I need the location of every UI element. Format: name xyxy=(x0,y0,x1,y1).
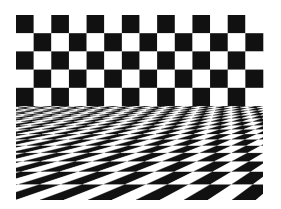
wall-tile xyxy=(210,51,228,70)
wall-tile xyxy=(122,88,140,107)
wall-tile xyxy=(34,33,52,52)
wall-tile xyxy=(175,70,193,89)
wall-tile xyxy=(228,33,246,52)
wall-tile xyxy=(69,88,87,107)
wall-tile xyxy=(210,33,228,52)
wall-tile xyxy=(34,15,52,34)
checkered-wall xyxy=(16,15,263,106)
wall-tile xyxy=(157,70,175,89)
wall-tile xyxy=(140,33,158,52)
wall-tile xyxy=(228,15,246,34)
wall-tile xyxy=(122,15,140,34)
wall-tile xyxy=(34,51,52,70)
wall-tile xyxy=(34,70,52,89)
wall-tile xyxy=(104,88,122,107)
wall-tile xyxy=(192,88,210,107)
wall-tile xyxy=(104,70,122,89)
wall-tile xyxy=(87,15,105,34)
wall-tile xyxy=(245,88,263,107)
wall-tile xyxy=(122,33,140,52)
wall-tile xyxy=(192,15,210,34)
wall-tile xyxy=(157,15,175,34)
wall-tile xyxy=(16,33,34,52)
wall-tile xyxy=(51,70,69,89)
wall-tile xyxy=(16,88,34,107)
wall-tile xyxy=(245,33,263,52)
wall-tile xyxy=(228,70,246,89)
wall-tile xyxy=(87,33,105,52)
wall-tile xyxy=(157,88,175,107)
checkered-perspective-floor xyxy=(0,104,281,200)
wall-tile xyxy=(140,70,158,89)
wall-tile xyxy=(140,15,158,34)
wall-tile xyxy=(122,51,140,70)
wall-tile xyxy=(140,88,158,107)
wall-tile xyxy=(192,51,210,70)
wall-tile xyxy=(175,51,193,70)
wall-tile xyxy=(51,33,69,52)
wall-tile xyxy=(245,51,263,70)
wall-tile xyxy=(69,15,87,34)
wall-tile xyxy=(157,33,175,52)
wall-tile xyxy=(210,88,228,107)
wall-tile xyxy=(104,33,122,52)
wall-tile xyxy=(122,70,140,89)
wall-tile xyxy=(140,51,158,70)
wall-tile xyxy=(16,70,34,89)
wall-tile xyxy=(87,70,105,89)
wall-tile xyxy=(69,51,87,70)
wall-tile xyxy=(210,70,228,89)
wall-tile xyxy=(16,51,34,70)
wall-tile xyxy=(104,51,122,70)
wall-tile xyxy=(245,70,263,89)
wall-tile xyxy=(104,15,122,34)
wall-tile xyxy=(34,88,52,107)
wall-tile xyxy=(157,51,175,70)
wall-tile xyxy=(175,15,193,34)
wall-tile xyxy=(210,15,228,34)
wall-tile xyxy=(87,51,105,70)
wall-tile xyxy=(228,88,246,107)
wall-tile xyxy=(228,51,246,70)
wall-tile xyxy=(51,51,69,70)
wall-tile xyxy=(192,70,210,89)
wall-tile xyxy=(69,70,87,89)
wall-tile xyxy=(175,33,193,52)
wall-tile xyxy=(245,15,263,34)
wall-tile xyxy=(51,88,69,107)
wall-tile xyxy=(69,33,87,52)
wall-tile xyxy=(16,15,34,34)
wall-tile xyxy=(51,15,69,34)
wall-tile xyxy=(87,88,105,107)
wall-tile xyxy=(192,33,210,52)
checkerboard-illusion-image xyxy=(0,0,281,209)
wall-tile xyxy=(175,88,193,107)
